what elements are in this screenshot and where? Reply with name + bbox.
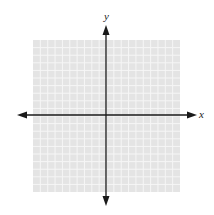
y-axis-down-arrow-icon (103, 196, 110, 206)
x-axis-right-arrow-icon (187, 112, 197, 119)
y-axis-label: y (104, 11, 109, 22)
x-axis-left-arrow-icon (17, 112, 27, 119)
y-axis-up-arrow-icon (103, 25, 110, 35)
coordinate-plane (0, 0, 214, 215)
x-axis-label: x (199, 109, 204, 120)
